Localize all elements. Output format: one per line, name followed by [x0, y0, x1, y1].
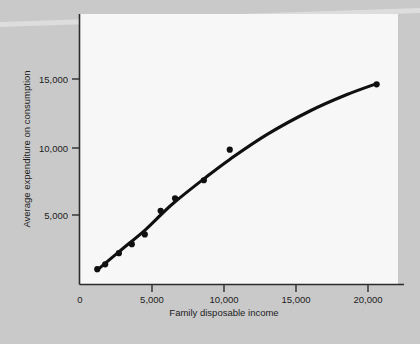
- data-point: [172, 195, 178, 201]
- y-tick-label-10000: 10,000: [39, 143, 68, 154]
- data-point: [129, 241, 135, 247]
- x-tick-label-10000: 10,000: [209, 294, 238, 305]
- data-point: [102, 261, 108, 267]
- scatter-chart-figure: 0 5,000 10,000 15,000 20,000 5,000 10,00…: [0, 0, 420, 344]
- y-tick-label-5000: 5,000: [44, 210, 68, 221]
- data-point: [142, 231, 148, 237]
- x-tick-label-15000: 15,000: [281, 294, 310, 305]
- x-tick-label-20000: 20,000: [353, 294, 382, 305]
- x-axis-title: Family disposable income: [169, 307, 278, 318]
- data-point: [374, 81, 380, 87]
- data-point: [158, 208, 164, 214]
- x-tick-label-0: 0: [77, 294, 82, 305]
- x-tick-label-5000: 5,000: [140, 294, 164, 305]
- data-point: [227, 147, 233, 153]
- data-point: [94, 266, 100, 272]
- y-tick-label-15000: 15,000: [39, 74, 68, 85]
- y-axis-title: Average expenditure on consumption: [21, 70, 32, 227]
- data-point: [201, 177, 207, 183]
- data-point: [116, 250, 122, 256]
